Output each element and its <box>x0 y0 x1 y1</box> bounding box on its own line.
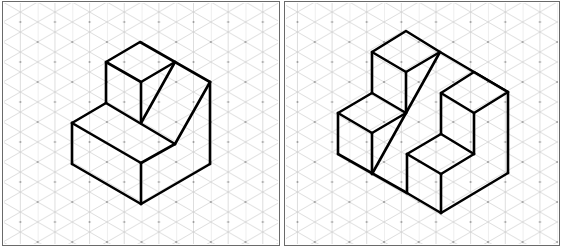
grid-background-right <box>286 3 558 244</box>
drawing-canvas <box>0 0 561 249</box>
